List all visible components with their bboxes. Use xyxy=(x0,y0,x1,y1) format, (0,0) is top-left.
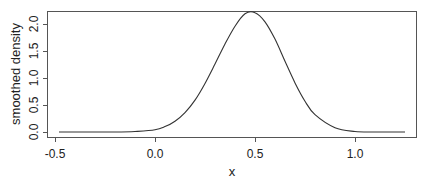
y-tick-label: 0.5 xyxy=(27,96,41,113)
y-tick-label: 1.5 xyxy=(27,42,41,59)
y-tick-label: 1.0 xyxy=(27,69,41,86)
x-tick-label: 1.0 xyxy=(347,147,364,161)
x-axis xyxy=(56,138,356,143)
x-axis-label: x xyxy=(229,164,236,179)
x-tick-label: 0.0 xyxy=(147,147,164,161)
x-tick-label: -0.5 xyxy=(45,147,66,161)
y-axis-label: smoothed density xyxy=(8,23,23,125)
density-curve xyxy=(59,12,405,132)
density-plot: -0.5 0.0 0.5 1.0 x 0.0 0.5 1.0 1.5 2.0 s… xyxy=(0,0,431,183)
y-tick-label: 2.0 xyxy=(27,15,41,32)
x-tick-label: 0.5 xyxy=(247,147,264,161)
y-axis xyxy=(43,25,48,133)
y-tick-label: 0.0 xyxy=(27,123,41,140)
